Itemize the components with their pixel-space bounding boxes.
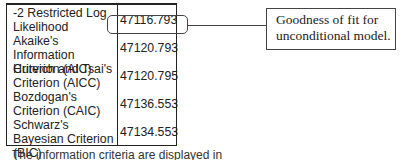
highlight-callout (107, 15, 188, 34)
row-value: 47120.793 (120, 41, 178, 55)
table-row: Bozdogan's Criterion (CAIC) 47136.553 (7, 89, 176, 117)
row-label: Bozdogan's Criterion (CAIC) (13, 90, 117, 118)
row-value: 47120.795 (120, 69, 178, 83)
table-row: Hurvich and Tsai's Criterion (AICC) 4712… (7, 61, 176, 89)
annotation-box: Goodness of fit for unconditional model. (266, 8, 396, 50)
table-row: Schwarz's Bayesian Criterion (BIC) 47134… (7, 117, 176, 145)
table-row: Akaike's Information Criterion (AIC) 471… (7, 33, 176, 61)
row-label: Hurvich and Tsai's Criterion (AICC) (13, 62, 117, 90)
row-value: 47136.553 (120, 97, 178, 111)
row-label: -2 Restricted Log Likelihood (13, 6, 117, 34)
caption-text: The information criteria are displayed i… (12, 148, 272, 160)
row-value: 47134.553 (120, 125, 178, 139)
callout-connector-line (188, 25, 266, 26)
